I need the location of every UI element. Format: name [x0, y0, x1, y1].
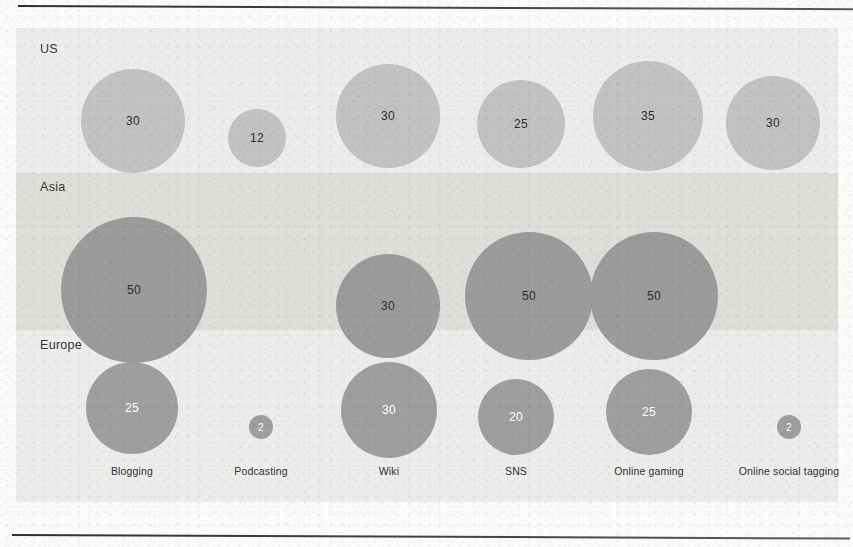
category-label-online-social-tagging: Online social tagging — [739, 465, 840, 477]
bubble-us-online-gaming[interactable]: 35 — [593, 61, 703, 171]
category-label-sns: SNS — [505, 465, 527, 477]
bubble-value: 30 — [381, 299, 395, 313]
bubble-us-online-social-tagging[interactable]: 30 — [726, 76, 820, 170]
bubble-value: 2 — [258, 422, 264, 433]
bubble-europe-sns[interactable]: 20 — [478, 379, 554, 455]
row-label-europe: Europe — [40, 338, 82, 352]
bubble-value: 2 — [786, 422, 792, 433]
bubble-asia-blogging[interactable]: 50 — [61, 217, 207, 363]
category-label-podcasting: Podcasting — [234, 465, 287, 477]
bubble-value: 30 — [381, 109, 395, 123]
bubble-value: 50 — [522, 289, 536, 303]
bubble-europe-online-gaming[interactable]: 25 — [606, 369, 692, 455]
bubble-us-wiki[interactable]: 30 — [336, 64, 440, 168]
bubble-asia-sns[interactable]: 50 — [465, 232, 593, 360]
bubble-value: 30 — [382, 403, 396, 417]
page-rule-top — [18, 5, 853, 10]
bubble-value: 50 — [127, 283, 141, 297]
bubble-value: 20 — [509, 410, 523, 424]
bubble-value: 25 — [514, 117, 528, 131]
bubble-asia-online-gaming[interactable]: 50 — [590, 232, 718, 360]
bubble-value: 30 — [766, 116, 780, 130]
category-label-blogging: Blogging — [111, 465, 153, 477]
bubble-chart-panel: US Asia Europe 30 12 30 25 35 30 50 30 5… — [16, 28, 838, 502]
bubble-value: 30 — [126, 114, 140, 128]
bubble-us-podcasting[interactable]: 12 — [228, 109, 286, 167]
bubble-europe-online-social-tagging[interactable]: 2 — [777, 415, 801, 439]
bubble-value: 35 — [641, 109, 655, 123]
category-label-wiki: Wiki — [379, 465, 399, 477]
bubble-europe-podcasting[interactable]: 2 — [249, 415, 273, 439]
bubble-value: 25 — [125, 401, 139, 415]
scanned-page: US Asia Europe 30 12 30 25 35 30 50 30 5… — [0, 0, 853, 547]
bubble-value: 12 — [250, 131, 264, 145]
row-label-us: US — [40, 42, 58, 56]
bubble-us-blogging[interactable]: 30 — [81, 69, 185, 173]
bubble-value: 50 — [647, 289, 661, 303]
bubble-europe-wiki[interactable]: 30 — [341, 362, 437, 458]
page-rule-bottom — [12, 534, 850, 540]
bubble-asia-wiki[interactable]: 30 — [336, 254, 440, 358]
bubble-europe-blogging[interactable]: 25 — [86, 362, 178, 454]
bubble-us-sns[interactable]: 25 — [477, 80, 565, 168]
row-label-asia: Asia — [40, 180, 66, 194]
category-label-online-gaming: Online gaming — [614, 465, 684, 477]
bubble-value: 25 — [642, 405, 656, 419]
